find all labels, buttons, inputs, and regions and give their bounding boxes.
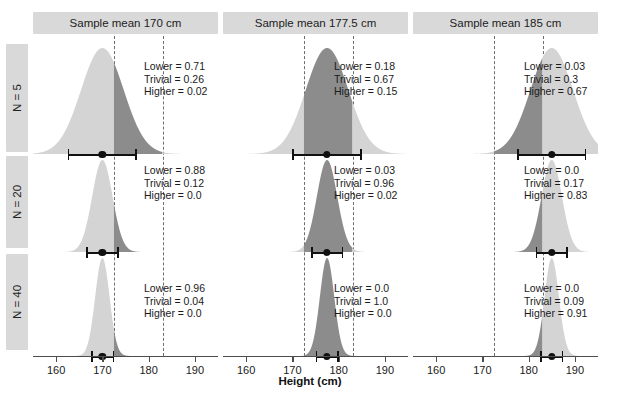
panel-col0-row2: Lower = 0.96Trivial = 0.04Higher = 0.0 [33,252,218,356]
annotation-higher: Higher = 0.83 [524,189,587,202]
annotation-higher: Higher = 0.67 [524,85,587,98]
column-strip-label-0: Sample mean 170 cm [33,12,218,34]
x-tick-label-0-0: 160 [47,364,65,376]
figure: Sample mean 170 cmSample mean 177.5 cmSa… [0,0,620,395]
annotation-trivial: Trivial = 0.67 [334,73,397,86]
x-tick-2-0 [436,357,437,362]
panel-col2-row2: Lower = 0.0Trivial = 0.09Higher = 0.91 [413,252,598,356]
panel-col1-row2: Lower = 0.0Trivial = 1.0Higher = 0.0 [223,252,408,356]
x-tick-label-0-1: 170 [93,364,111,376]
probability-annotation: Lower = 0.71Trivial = 0.26Higher = 0.02 [144,60,207,98]
x-tick-1-1 [292,357,293,362]
x-tick-0-3 [195,357,196,362]
density-curve [33,42,218,154]
annotation-higher: Higher = 0.15 [334,85,397,98]
annotation-lower: Lower = 0.88 [144,164,205,177]
probability-annotation: Lower = 0.88Trivial = 0.12Higher = 0.0 [144,164,205,202]
panel-col2-row0: Lower = 0.03Trivial = 0.3Higher = 0.67 [413,42,598,154]
annotation-lower: Lower = 0.71 [144,60,207,73]
annotation-trivial: Trivial = 0.3 [524,73,587,86]
x-axis-line-0 [33,356,218,357]
row-strip-label-0: N = 5 [11,84,23,112]
annotation-higher: Higher = 0.0 [334,307,392,320]
annotation-lower: Lower = 0.0 [524,282,587,295]
x-tick-2-1 [482,357,483,362]
x-tick-label-2-1: 170 [473,364,491,376]
probability-annotation: Lower = 0.0Trivial = 1.0Higher = 0.0 [334,282,392,320]
probability-annotation: Lower = 0.18Trivial = 0.67Higher = 0.15 [334,60,397,98]
annotation-higher: Higher = 0.0 [144,189,205,202]
density-curve [223,42,408,154]
x-tick-2-3 [575,357,576,362]
annotation-lower: Lower = 0.0 [334,282,392,295]
x-tick-label-2-2: 180 [519,364,537,376]
probability-annotation: Lower = 0.0Trivial = 0.17Higher = 0.83 [524,164,587,202]
x-tick-0-0 [56,357,57,362]
panel-col0-row0: Lower = 0.71Trivial = 0.26Higher = 0.02 [33,42,218,154]
x-axis-line-2 [413,356,598,357]
probability-annotation: Lower = 0.03Trivial = 0.96Higher = 0.02 [334,164,397,202]
annotation-trivial: Trivial = 0.09 [524,295,587,308]
annotation-higher: Higher = 0.02 [144,85,207,98]
panel-col2-row1: Lower = 0.0Trivial = 0.17Higher = 0.83 [413,154,598,252]
annotation-higher: Higher = 0.0 [144,307,205,320]
panel-col1-row1: Lower = 0.03Trivial = 0.96Higher = 0.02 [223,154,408,252]
annotation-lower: Lower = 0.18 [334,60,397,73]
panel-col1-row0: Lower = 0.18Trivial = 0.67Higher = 0.15 [223,42,408,154]
annotation-trivial: Trivial = 0.96 [334,177,397,190]
annotation-higher: Higher = 0.02 [334,189,397,202]
panel-col0-row1: Lower = 0.88Trivial = 0.12Higher = 0.0 [33,154,218,252]
annotation-trivial: Trivial = 0.12 [144,177,205,190]
column-strip-label-2: Sample mean 185 cm [413,12,598,34]
x-tick-label-2-3: 190 [566,364,584,376]
x-tick-label-2-0: 160 [427,364,445,376]
annotation-trivial: Trivial = 1.0 [334,295,392,308]
x-tick-2-2 [529,357,530,362]
density-curve [413,42,598,154]
x-tick-label-1-0: 160 [237,364,255,376]
row-strip-label-2: N = 40 [11,285,23,319]
annotation-lower: Lower = 0.96 [144,282,205,295]
annotation-trivial: Trivial = 0.26 [144,73,207,86]
row-strip-2: N = 40 [6,254,28,350]
x-tick-label-0-3: 190 [186,364,204,376]
probability-annotation: Lower = 0.03Trivial = 0.3Higher = 0.67 [524,60,587,98]
x-tick-1-3 [385,357,386,362]
probability-annotation: Lower = 0.96Trivial = 0.04Higher = 0.0 [144,282,205,320]
x-tick-0-2 [149,357,150,362]
x-tick-label-1-3: 190 [376,364,394,376]
x-tick-1-0 [246,357,247,362]
x-tick-1-2 [339,357,340,362]
x-axis-title: Height (cm) [278,375,341,387]
x-axis-line-1 [223,356,408,357]
column-strip-label-1: Sample mean 177.5 cm [223,12,408,34]
probability-annotation: Lower = 0.0Trivial = 0.09Higher = 0.91 [524,282,587,320]
x-tick-label-0-2: 180 [139,364,157,376]
x-tick-0-1 [102,357,103,362]
annotation-trivial: Trivial = 0.17 [524,177,587,190]
row-strip-1: N = 20 [6,156,28,248]
annotation-lower: Lower = 0.03 [524,60,587,73]
row-strip-label-1: N = 20 [11,185,23,219]
annotation-higher: Higher = 0.91 [524,307,587,320]
row-strip-0: N = 5 [6,44,28,152]
annotation-lower: Lower = 0.03 [334,164,397,177]
annotation-trivial: Trivial = 0.04 [144,295,205,308]
annotation-lower: Lower = 0.0 [524,164,587,177]
